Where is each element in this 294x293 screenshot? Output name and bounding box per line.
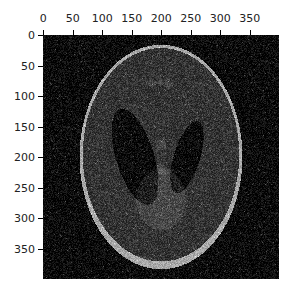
x-tick-mark xyxy=(102,30,103,35)
y-tick-label: 200 xyxy=(14,151,35,164)
y-tick-mark xyxy=(38,249,43,250)
y-tick-mark xyxy=(38,188,43,189)
y-tick-label: 250 xyxy=(14,181,35,194)
x-tick-label: 100 xyxy=(92,12,113,25)
phantom-image xyxy=(43,35,279,279)
x-tick-label: 350 xyxy=(239,12,260,25)
figure: 050100150200250300350 050100150200250300… xyxy=(0,0,294,293)
y-tick-label: 350 xyxy=(14,242,35,255)
y-tick-label: 300 xyxy=(14,212,35,225)
x-tick-mark xyxy=(250,30,251,35)
y-tick-mark xyxy=(38,35,43,36)
y-tick-mark xyxy=(38,157,43,158)
x-tick-label: 200 xyxy=(151,12,172,25)
x-tick-mark xyxy=(73,30,74,35)
x-tick-label: 0 xyxy=(40,12,47,25)
y-tick-mark xyxy=(38,96,43,97)
x-tick-label: 300 xyxy=(210,12,231,25)
y-tick-label: 150 xyxy=(14,120,35,133)
y-tick-mark xyxy=(38,127,43,128)
x-tick-mark xyxy=(161,30,162,35)
x-tick-mark xyxy=(220,30,221,35)
x-tick-label: 150 xyxy=(121,12,142,25)
y-tick-mark xyxy=(38,66,43,67)
x-tick-mark xyxy=(132,30,133,35)
y-tick-label: 0 xyxy=(28,29,35,42)
y-tick-mark xyxy=(38,218,43,219)
x-tick-label: 50 xyxy=(66,12,80,25)
y-tick-label: 50 xyxy=(21,59,35,72)
x-tick-mark xyxy=(43,30,44,35)
x-tick-mark xyxy=(191,30,192,35)
y-tick-label: 100 xyxy=(14,90,35,103)
x-tick-label: 250 xyxy=(180,12,201,25)
image-plot-area xyxy=(43,35,279,279)
